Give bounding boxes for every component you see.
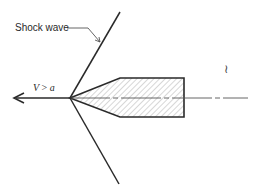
greater-than-operator: > <box>39 82 50 93</box>
shock-wave-label: Shock wave <box>15 22 69 33</box>
projectile-body <box>70 78 184 117</box>
speed-of-sound-symbol: a <box>50 82 55 93</box>
velocity-label: V > a <box>33 82 55 93</box>
margin-mark: ≀ <box>224 62 229 77</box>
